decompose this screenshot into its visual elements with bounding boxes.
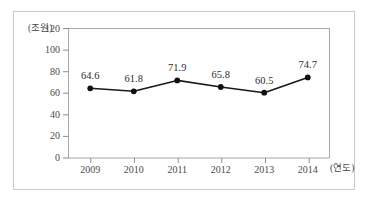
data-point-label: 71.9 bbox=[155, 62, 199, 73]
x-tick-label: 2011 bbox=[157, 165, 197, 175]
data-point-label: 64.6 bbox=[68, 70, 112, 81]
y-tick-label: 80 bbox=[34, 67, 60, 77]
y-tick-label: 20 bbox=[34, 131, 60, 141]
x-tick-label: 2014 bbox=[288, 165, 328, 175]
data-point-marker bbox=[261, 90, 267, 96]
y-tick-label: 60 bbox=[34, 88, 60, 98]
plot-area-border bbox=[69, 29, 330, 159]
x-tick-label: 2009 bbox=[70, 165, 110, 175]
data-point-marker bbox=[131, 88, 137, 94]
y-tick-label: 0 bbox=[34, 153, 60, 163]
data-point-label: 74.7 bbox=[286, 59, 330, 70]
data-point-marker bbox=[174, 78, 180, 84]
data-point-marker bbox=[218, 84, 224, 90]
y-tick-label: 120 bbox=[34, 24, 60, 34]
y-tick-label: 40 bbox=[34, 110, 60, 120]
y-tick-label: 100 bbox=[34, 45, 60, 55]
y-axis-ticks bbox=[63, 29, 69, 159]
data-point-marker bbox=[87, 85, 93, 91]
data-point-label: 60.5 bbox=[242, 75, 286, 86]
x-tick-label: 2012 bbox=[201, 165, 241, 175]
x-tick-label: 2013 bbox=[244, 165, 284, 175]
x-axis-ticks bbox=[91, 158, 309, 163]
data-point-marker bbox=[305, 74, 311, 80]
x-tick-label: 2010 bbox=[114, 165, 154, 175]
data-point-label: 65.8 bbox=[199, 69, 243, 80]
data-point-label: 61.8 bbox=[112, 73, 156, 84]
x-axis-unit-label: (연도) bbox=[330, 163, 354, 174]
